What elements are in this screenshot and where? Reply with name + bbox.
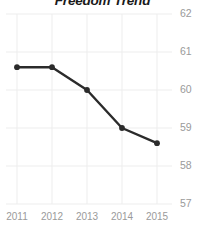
data-point-2015 <box>154 140 160 146</box>
y-tick-label-61: 61 <box>180 45 192 57</box>
chart-container: Freedom Trend 626160595857 2011201220132… <box>0 0 205 233</box>
plot-area <box>0 0 205 233</box>
y-tick-label-59: 59 <box>180 121 192 133</box>
y-tick-label-58: 58 <box>180 159 192 171</box>
data-point-2014 <box>119 125 125 131</box>
y-tick-label-57: 57 <box>180 197 192 209</box>
y-tick-label-60: 60 <box>180 83 192 95</box>
x-tick-label-2013: 2013 <box>67 211 107 222</box>
x-tick-label-2014: 2014 <box>102 211 142 222</box>
data-point-2013 <box>84 87 90 93</box>
x-tick-label-2012: 2012 <box>32 211 72 222</box>
data-point-2011 <box>14 64 20 70</box>
vertical-gridlines <box>17 14 157 204</box>
horizontal-gridlines <box>6 14 172 204</box>
data-point-2012 <box>49 64 55 70</box>
y-tick-label-62: 62 <box>180 7 192 19</box>
x-tick-label-2015: 2015 <box>137 211 177 222</box>
